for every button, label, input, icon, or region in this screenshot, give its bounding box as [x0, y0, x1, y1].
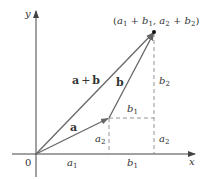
sum-point: [152, 30, 156, 34]
origin-label: 0: [25, 157, 31, 168]
vector-a-label: a: [70, 121, 77, 134]
y-axis-label: y: [24, 8, 31, 19]
vector-b-label: b: [116, 76, 124, 89]
b1-component-label-mid: b1: [127, 103, 138, 116]
x-axis-label: x: [189, 156, 195, 167]
b2-component-label: b2: [159, 75, 170, 88]
a1-component-label: a1: [67, 157, 77, 170]
b1-component-label-x: b1: [127, 157, 138, 170]
a2-component-label-left: a2: [95, 133, 105, 146]
vector-a-plus-b-label: a+b: [72, 74, 100, 87]
sum-point-label: (a1 + b1, a2 + b2): [113, 15, 199, 28]
vector-addition-diagram: y x 0 (a1 + b1, a2 + b2) a+b b a a1 b1 a…: [0, 0, 208, 179]
a2-component-label-right: a2: [159, 133, 169, 146]
